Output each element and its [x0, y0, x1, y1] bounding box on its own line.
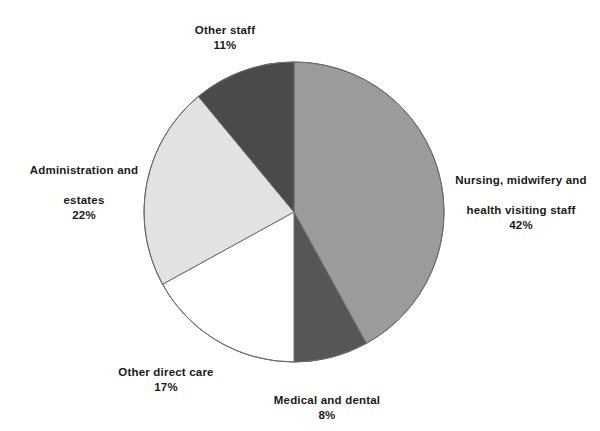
slice-label-administration-name-line1: Administration and: [30, 164, 138, 176]
slice-label-other-staff: Other staff 11%: [150, 8, 300, 68]
slice-label-other-direct-care: Other direct care 17%: [82, 350, 250, 410]
slice-label-nursing-name-line1: Nursing, midwifery and: [455, 174, 587, 186]
slice-label-nursing-name-line2: health visiting staff: [467, 204, 576, 216]
slice-label-administration-name-line2: estates: [63, 194, 104, 206]
slice-label-other-direct-care-value: 17%: [82, 380, 250, 395]
slice-label-other-direct-care-name: Other direct care: [118, 366, 213, 378]
slice-label-medical-and-dental-value: 8%: [238, 408, 416, 423]
slice-label-other-staff-value: 11%: [150, 38, 300, 53]
slice-label-medical-and-dental-name: Medical and dental: [274, 394, 380, 406]
slice-label-medical-and-dental: Medical and dental 8%: [238, 378, 416, 431]
slice-label-nursing: Nursing, midwifery and health visiting s…: [448, 158, 594, 248]
slice-label-administration: Administration and estates 22%: [8, 148, 160, 238]
slice-label-administration-value: 22%: [8, 208, 160, 223]
slice-label-nursing-value: 42%: [448, 218, 594, 233]
slice-label-other-staff-name: Other staff: [195, 24, 255, 36]
pie-chart: Other staff 11% Nursing, midwifery and h…: [0, 0, 600, 431]
